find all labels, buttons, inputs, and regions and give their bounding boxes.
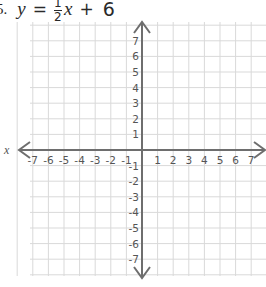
x-tick-label: -3 [90, 154, 100, 166]
y-tick-label: -5 [129, 222, 139, 234]
y-tick-label: 3 [132, 97, 139, 109]
x-tick-label: -6 [43, 154, 54, 166]
x-tick-label: 2 [170, 154, 177, 166]
x-axis-label: x [3, 143, 10, 157]
x-tick-label: 7 [248, 154, 255, 166]
y-tick-label: -2 [129, 175, 139, 187]
y-tick-label: -6 [129, 238, 140, 250]
coordinate-grid[interactable]: x-7-6-5-4-3-2-112345677654321-1-2-3-4-5-… [0, 0, 266, 287]
y-tick-label: 6 [132, 50, 139, 62]
y-tick-label: -7 [129, 253, 139, 265]
y-tick-label: 4 [132, 82, 139, 94]
x-tick-label: 1 [154, 154, 161, 166]
x-tick-label: 6 [232, 154, 239, 166]
x-tick-label: -4 [74, 154, 85, 166]
x-tick-label: 5 [217, 154, 224, 166]
y-tick-label: 5 [132, 66, 139, 78]
y-tick-label: 7 [132, 35, 139, 47]
x-tick-label: -7 [28, 154, 38, 166]
x-tick-label: -5 [59, 154, 69, 166]
x-tick-label: 3 [185, 154, 192, 166]
y-tick-label: -1 [129, 160, 139, 172]
x-tick-label: -2 [106, 154, 116, 166]
x-tick-label: 4 [201, 154, 208, 166]
y-tick-label: -4 [129, 206, 140, 218]
axes [19, 22, 265, 278]
y-tick-label: -3 [129, 191, 139, 203]
y-tick-label: 2 [132, 113, 139, 125]
y-tick-label: 1 [132, 128, 139, 140]
